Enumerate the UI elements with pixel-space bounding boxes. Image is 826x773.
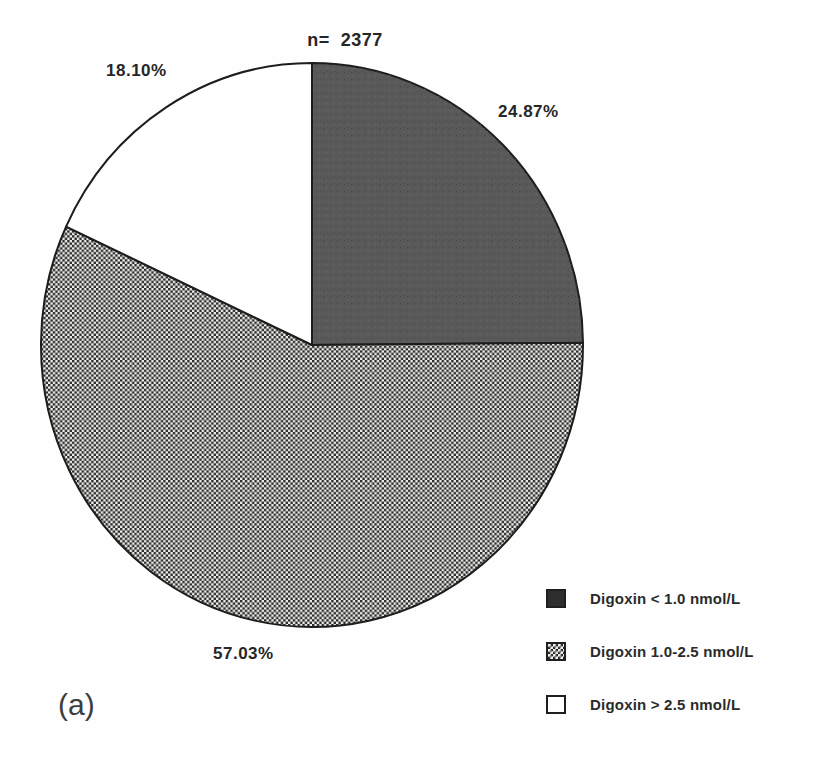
- slice-label-digoxin-high: 18.10%: [106, 61, 167, 81]
- legend-swatch-white-icon: [546, 695, 566, 714]
- legend-swatch-solid-icon: [546, 589, 566, 608]
- legend-label: Digoxin > 2.5 nmol/L: [590, 696, 740, 713]
- slice-label-digoxin-mid: 57.03%: [213, 644, 274, 664]
- legend-item-digoxin-low: Digoxin < 1.0 nmol/L: [546, 586, 816, 610]
- legend-label: Digoxin 1.0-2.5 nmol/L: [590, 643, 754, 660]
- legend-swatch-stipple-icon: [546, 642, 566, 661]
- legend-item-digoxin-mid: Digoxin 1.0-2.5 nmol/L: [546, 639, 816, 663]
- legend: Digoxin < 1.0 nmol/L Digoxin 1.0-2.5 nmo…: [546, 586, 816, 745]
- panel-letter-label: (a): [58, 688, 95, 722]
- sample-size-label: n= 2377: [270, 30, 420, 51]
- figure-panel: n= 2377 24.87% 57.03% 18.10% (a) Digoxin…: [0, 0, 826, 773]
- legend-label: Digoxin < 1.0 nmol/L: [590, 590, 740, 607]
- slice-label-digoxin-low: 24.87%: [498, 102, 559, 122]
- legend-item-digoxin-high: Digoxin > 2.5 nmol/L: [546, 692, 816, 716]
